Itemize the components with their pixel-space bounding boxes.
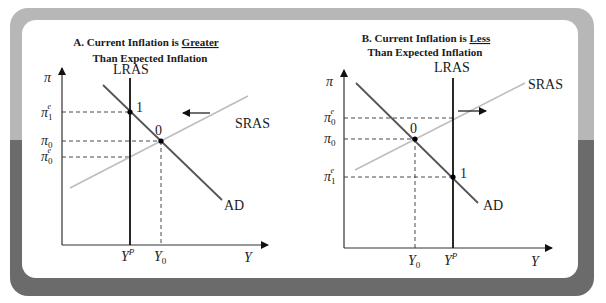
as-ad-diagrams: A. Current Inflation is Greater Than Exp… (0, 0, 606, 303)
ad-label: AD (483, 198, 503, 213)
point-0-label: 0 (155, 123, 162, 138)
panel-b: B. Current Inflation is Less Than Expect… (324, 32, 563, 270)
point-1 (127, 109, 132, 114)
sras-label: SRAS (235, 116, 270, 131)
panel-a-title-line2: Than Expected Inflation (93, 52, 208, 64)
point-0-label: 0 (410, 121, 417, 136)
panel-b-title-line1: B. Current Inflation is Less (362, 32, 491, 44)
point-0 (158, 138, 163, 143)
point-1 (450, 174, 455, 179)
ytick-pi1e: π1e (41, 102, 53, 122)
x-axis-label: Y (531, 254, 541, 269)
y-axis-label: π (44, 70, 52, 85)
panel-a-title-line1: A. Current Inflation is Greater (73, 36, 218, 48)
y-axis-label: π (326, 74, 334, 89)
ytick-pi1e: π1e (324, 166, 336, 186)
panel-b-title-line2: Than Expected Inflation (368, 46, 483, 58)
point-0 (412, 136, 417, 141)
ad-label: AD (224, 198, 244, 213)
xtick-y0: Y0 (408, 253, 421, 270)
lras-label: LRAS (113, 62, 149, 77)
panel-a: A. Current Inflation is Greater Than Exp… (41, 36, 270, 266)
xtick-yp: YP (444, 251, 458, 268)
ytick-pi0: π0 (324, 131, 336, 148)
xtick-yp: YP (121, 247, 135, 264)
lras-label: LRAS (434, 60, 470, 75)
sras-label: SRAS (528, 77, 563, 92)
ytick-pi0e: π0e (324, 107, 336, 127)
point-1-label: 1 (460, 166, 467, 181)
x-axis-label: Y (244, 250, 254, 265)
xtick-y0: Y0 (154, 249, 167, 266)
point-1-label: 1 (136, 100, 143, 115)
ad-curve (356, 83, 478, 203)
sras-curve (355, 83, 525, 170)
